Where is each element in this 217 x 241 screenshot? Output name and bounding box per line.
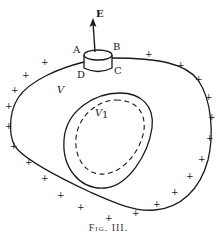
diagram-canvas: E A B C D V V 1 ++++++++++++++++++++++ xyxy=(0,0,217,241)
plus-charge-icon: + xyxy=(206,133,214,143)
label-c: C xyxy=(114,65,122,76)
plus-charge-icon: + xyxy=(11,85,19,95)
label-field-e: E xyxy=(96,8,104,19)
plus-charge-icon: + xyxy=(77,202,85,212)
plus-charge-icon: + xyxy=(57,190,65,200)
plus-charge-icon: + xyxy=(25,157,33,167)
plus-charge-icon: + xyxy=(186,171,194,181)
label-inner-subscript: 1 xyxy=(102,109,108,120)
plus-charge-icon: + xyxy=(208,112,216,122)
surface-charges: ++++++++++++++++++++++ xyxy=(5,49,216,223)
pillbox xyxy=(84,50,112,72)
plus-charge-icon: + xyxy=(5,121,13,131)
plus-charge-icon: + xyxy=(145,49,153,59)
label-d: D xyxy=(77,69,85,80)
plus-charge-icon: + xyxy=(41,173,49,183)
plus-charge-icon: + xyxy=(205,92,213,102)
plus-charge-icon: + xyxy=(22,70,30,80)
figure-caption: Fig. III. xyxy=(0,222,217,233)
plus-charge-icon: + xyxy=(132,208,140,218)
label-a: A xyxy=(72,44,81,55)
plus-charge-icon: + xyxy=(171,187,179,197)
plus-charge-icon: + xyxy=(198,154,206,164)
inner-gaussian-surface xyxy=(76,100,144,174)
plus-charge-icon: + xyxy=(177,60,185,70)
plus-charge-icon: + xyxy=(195,74,203,84)
plus-charge-icon: + xyxy=(41,57,49,67)
pillbox-side xyxy=(84,55,112,72)
plus-charge-icon: + xyxy=(10,141,18,151)
plus-charge-icon: + xyxy=(153,199,161,209)
label-b: B xyxy=(113,41,120,52)
label-outer-volume: V xyxy=(57,84,66,95)
pillbox-top xyxy=(84,50,112,60)
plus-charge-icon: + xyxy=(5,101,13,111)
electric-field-arrow xyxy=(90,18,97,52)
